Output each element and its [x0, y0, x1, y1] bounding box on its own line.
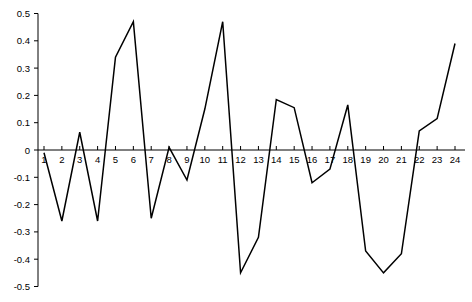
x-axis-tick-label: 9	[184, 154, 189, 165]
y-axis-tick-label: 0.2	[17, 90, 30, 101]
x-axis-tick-label: 2	[59, 154, 64, 165]
y-axis-tick-label: 0.3	[17, 63, 30, 74]
x-axis-tick-label: 21	[396, 154, 407, 165]
x-axis-tick-label: 4	[95, 154, 100, 165]
y-axis-tick-label: 0	[25, 145, 30, 156]
chart-screenshot: -0.5-0.4-0.3-0.2-0.100.10.20.30.40.5 123…	[0, 0, 472, 302]
y-axis-tick-label: 0.5	[17, 8, 30, 19]
chart-background	[0, 0, 472, 302]
x-axis-tick-label: 6	[131, 154, 136, 165]
x-axis-tick-label: 15	[289, 154, 300, 165]
x-axis-tick-label: 19	[360, 154, 371, 165]
line-chart: -0.5-0.4-0.3-0.2-0.100.10.20.30.40.5 123…	[0, 0, 472, 302]
y-axis-tick-label: -0.5	[14, 281, 30, 292]
x-axis-tick-label: 18	[342, 154, 353, 165]
x-axis-tick-label: 12	[235, 154, 246, 165]
x-axis-tick-label: 3	[77, 154, 82, 165]
x-axis-tick-label: 5	[113, 154, 118, 165]
x-axis-tick-label: 24	[450, 154, 461, 165]
y-axis-tick-label: 0.4	[17, 35, 30, 46]
y-axis-tick-label: -0.4	[14, 254, 30, 265]
y-axis-tick-label: -0.3	[14, 226, 30, 237]
x-axis-tick-label: 23	[432, 154, 443, 165]
y-axis-tick-label: -0.2	[14, 199, 30, 210]
y-axis-tick-label: 0.1	[17, 117, 30, 128]
x-axis-tick-label: 11	[218, 154, 228, 165]
x-axis-tick-label: 7	[149, 154, 154, 165]
x-axis-tick-label: 14	[271, 154, 282, 165]
x-axis-tick-label: 16	[307, 154, 318, 165]
x-axis-tick-label: 20	[378, 154, 389, 165]
x-axis-tick-label: 10	[200, 154, 211, 165]
x-axis-tick-label: 13	[253, 154, 264, 165]
y-axis-tick-label: -0.1	[14, 172, 30, 183]
